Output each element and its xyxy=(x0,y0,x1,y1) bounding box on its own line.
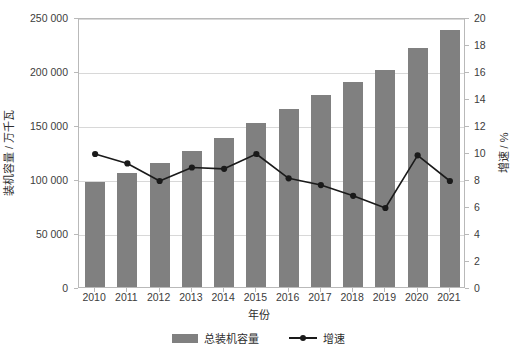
x-axis-tick-mark xyxy=(94,288,95,292)
x-axis-tick-mark xyxy=(417,288,418,292)
x-axis-tick-label: 2019 xyxy=(373,291,396,303)
x-axis-tick-label: 2011 xyxy=(115,291,138,303)
legend-item-line: 增速 xyxy=(289,330,345,346)
y-axis-right-tick-mark xyxy=(465,126,469,127)
x-axis-tick-mark xyxy=(223,288,224,292)
y-axis-right-tick-label: 12 xyxy=(474,120,486,132)
line-path xyxy=(95,154,450,208)
y-axis-right-tick-label: 16 xyxy=(474,66,486,78)
y-axis-left-tick-label: 50 000 xyxy=(36,228,68,240)
x-axis-tick-mark xyxy=(255,288,256,292)
y-axis-right-tick-label: 8 xyxy=(474,174,480,186)
y-axis-right-ticks: 02468101214161820 xyxy=(470,0,517,357)
line-marker xyxy=(415,152,421,158)
y-axis-right-tick-label: 2 xyxy=(474,255,480,267)
y-axis-right-tick-mark xyxy=(465,207,469,208)
line-marker xyxy=(189,164,195,170)
y-axis-right-tick-mark xyxy=(465,261,469,262)
x-axis-tick-mark xyxy=(288,288,289,292)
y-axis-right-tick-label: 6 xyxy=(474,201,480,213)
y-axis-right-tick-mark xyxy=(465,18,469,19)
x-axis-tick-mark xyxy=(320,288,321,292)
line-marker xyxy=(157,178,163,184)
y-axis-left-tick-label: 150 000 xyxy=(30,120,68,132)
y-axis-right-tick-label: 0 xyxy=(474,282,480,294)
x-axis-tick-label: 2020 xyxy=(405,291,428,303)
y-axis-right-tick-label: 10 xyxy=(474,147,486,159)
x-axis-tick-mark xyxy=(384,288,385,292)
x-axis-tick-label: 2021 xyxy=(437,291,460,303)
x-axis-tick-label: 2015 xyxy=(244,291,267,303)
y-axis-left-ticks: 050 000100 000150 000200 000250 000 xyxy=(0,0,74,357)
x-axis-tick-label: 2016 xyxy=(276,291,299,303)
x-axis-tick-mark xyxy=(191,288,192,292)
plot-area xyxy=(78,18,465,288)
legend-line-swatch-icon xyxy=(289,333,317,343)
x-axis-tick-label: 2013 xyxy=(179,291,202,303)
y-axis-right-tick-label: 18 xyxy=(474,39,486,51)
chart-container: 装机容量 / 万千瓦 增速 / % 年份 050 000100 000150 0… xyxy=(0,0,517,357)
legend-bar-label: 总装机容量 xyxy=(204,330,259,346)
y-axis-right-tick-mark xyxy=(465,153,469,154)
y-axis-left-tick-label: 0 xyxy=(62,282,68,294)
line-marker xyxy=(221,166,227,172)
line-series xyxy=(79,19,465,288)
legend-line-label: 增速 xyxy=(323,330,345,346)
y-axis-left-tick-mark xyxy=(74,288,78,289)
line-marker xyxy=(124,160,130,166)
y-axis-left-tick-label: 250 000 xyxy=(30,12,68,24)
y-axis-right-tick-mark xyxy=(465,99,469,100)
y-axis-right-tick-mark xyxy=(465,234,469,235)
y-axis-left-tick-mark xyxy=(74,72,78,73)
x-axis-tick-label: 2018 xyxy=(340,291,363,303)
legend-item-bar: 总装机容量 xyxy=(172,330,259,346)
x-axis-tick-label: 2010 xyxy=(82,291,105,303)
line-marker xyxy=(382,205,388,211)
line-marker xyxy=(92,151,98,157)
line-marker xyxy=(253,151,259,157)
y-axis-left-tick-mark xyxy=(74,180,78,181)
y-axis-left-tick-label: 200 000 xyxy=(30,66,68,78)
line-marker xyxy=(447,178,453,184)
line-marker xyxy=(350,193,356,199)
y-axis-left-tick-mark xyxy=(74,126,78,127)
y-axis-left-tick-mark xyxy=(74,234,78,235)
x-axis-title: 年份 xyxy=(0,306,517,322)
y-axis-right-tick-mark xyxy=(465,288,469,289)
x-axis-tick-mark xyxy=(449,288,450,292)
y-axis-left-tick-mark xyxy=(74,18,78,19)
y-axis-right-tick-label: 4 xyxy=(474,228,480,240)
y-axis-right-tick-mark xyxy=(465,72,469,73)
y-axis-right-tick-label: 14 xyxy=(474,93,486,105)
x-axis-tick-mark xyxy=(159,288,160,292)
x-axis-tick-label: 2014 xyxy=(211,291,234,303)
chart-legend: 总装机容量 增速 xyxy=(0,330,517,346)
y-axis-right-tick-mark xyxy=(465,45,469,46)
x-axis-tick-mark xyxy=(126,288,127,292)
x-axis-tick-label: 2017 xyxy=(308,291,331,303)
line-marker xyxy=(286,175,292,181)
y-axis-right-tick-label: 20 xyxy=(474,12,486,24)
x-axis-tick-mark xyxy=(352,288,353,292)
legend-bar-swatch-icon xyxy=(172,334,198,343)
y-axis-left-tick-label: 100 000 xyxy=(30,174,68,186)
line-marker xyxy=(318,182,324,188)
y-axis-right-tick-mark xyxy=(465,180,469,181)
x-axis-tick-label: 2012 xyxy=(147,291,170,303)
x-axis-ticks: 2010201120122013201420152016201720182019… xyxy=(78,291,465,307)
